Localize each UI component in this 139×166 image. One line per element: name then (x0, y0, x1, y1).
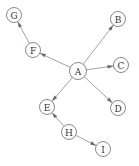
node-label: D (114, 104, 121, 114)
node-label: H (65, 128, 73, 138)
node-c: C (114, 58, 129, 73)
node-h: H (62, 125, 77, 140)
edge-h-to-e (52, 113, 64, 127)
node-i: I (96, 142, 111, 157)
graph-diagram: ABCDEFGHI (0, 0, 139, 166)
node-label: A (74, 67, 82, 77)
edge-a-to-d (84, 77, 112, 103)
node-label: B (115, 15, 122, 25)
node-d: D (111, 101, 126, 116)
edge-a-to-c (86, 65, 113, 70)
node-a: A (70, 63, 87, 80)
node-label: F (30, 46, 36, 56)
node-label: C (118, 61, 125, 71)
node-b: B (111, 12, 126, 27)
edge-a-to-e (52, 77, 73, 101)
edge-h-to-i (76, 135, 97, 145)
arrowhead-icon (90, 141, 96, 145)
arrowhead-icon (18, 22, 22, 28)
node-f: F (26, 43, 41, 58)
arrowhead-icon (107, 65, 113, 69)
node-label: E (44, 103, 51, 113)
arrowhead-icon (40, 53, 46, 57)
node-label: I (101, 145, 105, 155)
edge-f-to-g (18, 22, 30, 44)
edge-line (83, 25, 113, 64)
edge-a-to-f (40, 53, 71, 67)
edge-a-to-b (83, 25, 113, 64)
node-label: G (10, 11, 17, 21)
node-g: G (7, 8, 22, 23)
node-e: E (40, 100, 55, 115)
